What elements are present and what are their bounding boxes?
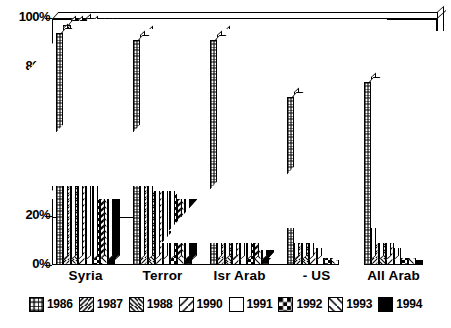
x-axis-label-all-arab: All Arab	[350, 268, 437, 283]
bar-chart: 0%20%40%60%80%100% SyriaTerrorIsr Arab- …	[0, 0, 451, 285]
legend-swatch-1992	[278, 297, 293, 312]
legend-swatch-1994	[378, 297, 393, 312]
x-axis-labels: SyriaTerrorIsr Arab- USAll Arab	[52, 268, 437, 288]
legend-item-1987[interactable]: 1987	[79, 297, 123, 312]
legend-label-1988: 1988	[147, 297, 173, 311]
legend-label-1993: 1993	[346, 297, 372, 311]
legend-label-1994: 1994	[396, 297, 422, 311]
y-tick-label-20pct: 20%	[2, 207, 50, 222]
legend-label-1991: 1991	[247, 297, 273, 311]
bar-front-face	[364, 82, 371, 265]
legend-swatch-1987	[79, 297, 94, 312]
legend-item-1991[interactable]: 1991	[229, 297, 273, 312]
legend-swatch-1988	[129, 297, 144, 312]
legend-swatch-1993	[328, 297, 343, 312]
x-axis-label-isr-arab: Isr Arab	[196, 268, 283, 283]
y-tick-mark-20	[45, 216, 52, 217]
x-axis-label-terror: Terror	[119, 268, 206, 283]
bars-layer	[52, 18, 437, 265]
legend-label-1992: 1992	[296, 297, 322, 311]
y-tick-mark-0	[45, 265, 52, 266]
y-tick-label-100pct: 100%	[2, 9, 50, 24]
legend-label-1990: 1990	[197, 297, 223, 311]
legend-item-1992[interactable]: 1992	[278, 297, 322, 312]
legend-label-1986: 1986	[47, 297, 73, 311]
bar-1986-all-arab[interactable]	[364, 82, 371, 265]
legend-swatch-1991	[229, 297, 244, 312]
legend-swatch-1990	[179, 297, 194, 312]
legend-item-1988[interactable]: 1988	[129, 297, 173, 312]
legend-item-1986[interactable]: 1986	[29, 297, 73, 312]
legend-item-1994[interactable]: 1994	[378, 297, 422, 312]
x-axis-label-us: - US	[273, 268, 360, 283]
legend-label-1987: 1987	[97, 297, 123, 311]
chart-legend: 19861987198819901991199219931994	[0, 292, 451, 316]
legend-swatch-1986	[29, 297, 44, 312]
legend-item-1993[interactable]: 1993	[328, 297, 372, 312]
chart-root: 0%20%40%60%80%100% SyriaTerrorIsr Arab- …	[0, 0, 451, 328]
x-axis-label-syria: Syria	[42, 268, 129, 283]
legend-item-1990[interactable]: 1990	[179, 297, 223, 312]
